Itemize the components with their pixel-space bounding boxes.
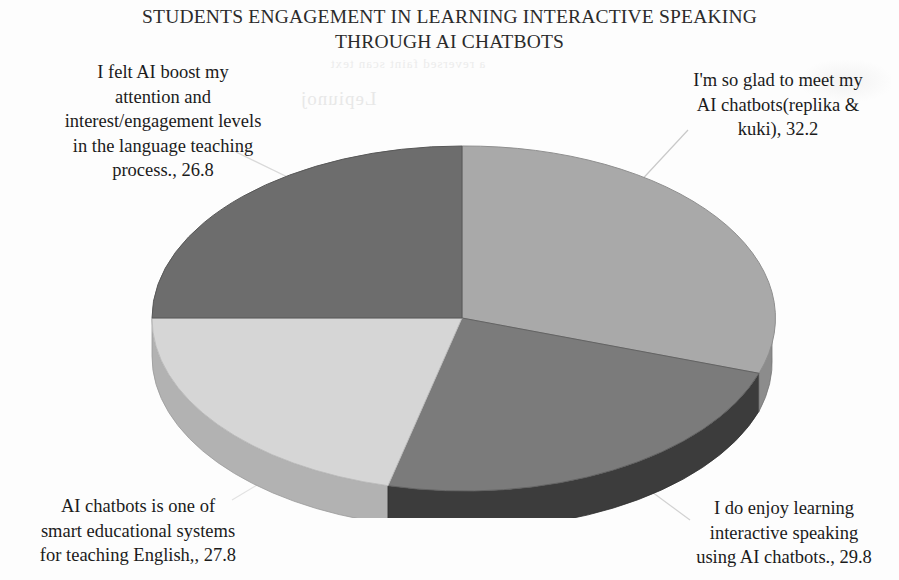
slice-label-32-2-line-2: AI chatbots(replika & <box>697 95 859 115</box>
scan-artifact-lower: Lepiunoj <box>300 88 377 110</box>
slice-label-27-8-line-1: AI chatbots is one of <box>61 496 215 516</box>
slice-label-32-2-line-3: kuki), 32.2 <box>738 119 819 139</box>
chart-title-line-1: STUDENTS ENGAGEMENT IN LEARNING INTERACT… <box>0 4 899 29</box>
pie-graphic <box>140 132 788 518</box>
slice-label-32-2-line-1: I'm so glad to meet my <box>693 70 862 90</box>
slice-label-26-8-line-2: attention and <box>115 87 211 107</box>
chart-title-line-2: THROUGH AI CHATBOTS <box>0 29 899 54</box>
slice-label-29-8-line-2: interactive speaking <box>710 523 858 543</box>
chart-title: STUDENTS ENGAGEMENT IN LEARNING INTERACT… <box>0 4 899 54</box>
slice-label-26-8-line-5: process., 26.8 <box>112 160 214 180</box>
slice-label-26-8-line-3: interest/engagement levels <box>65 111 262 131</box>
slice-label-27-8-line-3: for teaching English,, 27.8 <box>40 545 236 565</box>
slice-label-26-8: I felt AI boost my attention and interes… <box>26 60 300 183</box>
scan-artifact-upper: a reversed faint scan text <box>330 56 485 72</box>
slice-label-32-2: I'm so glad to meet my AI chatbots(repli… <box>664 68 892 142</box>
slice-label-27-8: AI chatbots is one of smart educational … <box>2 494 274 568</box>
pie-chart-figure: a reversed faint scan text Lepiunoj STUD… <box>0 0 899 580</box>
slice-label-26-8-line-1: I felt AI boost my <box>97 62 229 82</box>
slice-label-26-8-line-4: in the language teaching <box>73 136 253 156</box>
slice-label-27-8-line-2: smart educational systems <box>41 521 235 541</box>
slice-label-29-8-line-3: using AI chatbots., 29.8 <box>696 547 872 567</box>
slice-label-29-8: I do enjoy learning interactive speaking… <box>672 496 896 570</box>
slice-label-29-8-line-1: I do enjoy learning <box>714 498 854 518</box>
pie-svg <box>140 132 788 518</box>
